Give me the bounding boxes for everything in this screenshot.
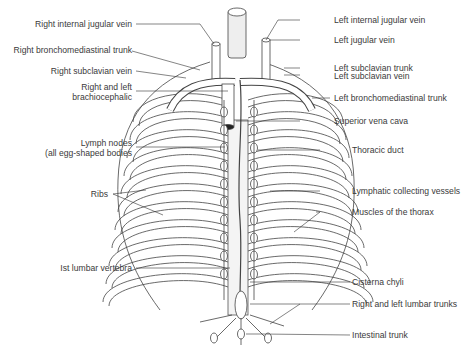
- rib: [103, 274, 228, 302]
- rib: [118, 184, 228, 212]
- rib: [121, 209, 228, 234]
- rib: [248, 137, 343, 162]
- trachea-opening: [228, 8, 246, 16]
- rib: [248, 202, 361, 230]
- label-left-jugular-vein: Left jugular vein: [334, 35, 395, 45]
- label-intestinal-trunk: Intestinal trunk: [352, 330, 408, 340]
- rib: [248, 148, 352, 176]
- rib: [127, 173, 228, 198]
- rib: [248, 155, 346, 180]
- rib: [248, 238, 367, 266]
- cisterna-chyli-sac: [235, 291, 247, 319]
- label-left-internal-jugular-vein: Left internal jugular vein: [334, 15, 425, 25]
- rib: [124, 148, 228, 176]
- rib: [248, 263, 364, 288]
- label-right-left-lumbar-trunks: Right and left lumbar trunks: [352, 299, 457, 309]
- label-first-lumbar-vertebra: Ist lumbar vertebra: [60, 263, 132, 273]
- rib: [248, 166, 355, 194]
- label-muscles-of-the-thorax: Muscles of the thorax: [352, 207, 434, 217]
- label-lymph-nodes-line2: (all egg-shaped bodies: [45, 148, 132, 158]
- label-thoracic-duct: Thoracic duct: [352, 145, 404, 155]
- label-superior-vena-cava: Superior vena cava: [334, 116, 408, 126]
- rib: [112, 220, 228, 248]
- label-left-subclavian-vein: Left subclavian vein: [334, 71, 409, 81]
- rib: [118, 227, 228, 252]
- vertebral-column: [228, 120, 248, 315]
- left-internal-jugular-vessel: [262, 40, 270, 84]
- rib: [124, 191, 228, 216]
- rib: [109, 238, 228, 266]
- rib: [133, 137, 228, 162]
- rib: [248, 227, 358, 252]
- label-brachiocephalic-line2: brachiocephalic: [72, 92, 132, 102]
- rib: [127, 130, 228, 158]
- rib: [248, 281, 367, 306]
- label-brachiocephalic-line1: Right and left: [81, 82, 132, 92]
- rib: [130, 155, 228, 180]
- rib: [136, 119, 228, 144]
- rib: [109, 281, 228, 306]
- rib: [248, 245, 361, 270]
- rib: [248, 173, 349, 198]
- rib: [248, 112, 346, 140]
- trachea: [228, 10, 246, 58]
- label-cisterna-chyli: Cisterna chyli: [352, 277, 404, 287]
- label-lymphatic-collecting-vessels: Lymphatic collecting vessels: [352, 186, 460, 196]
- label-left-bronchomediastinal-trunk: Left bronchomediastinal trunk: [334, 93, 447, 103]
- label-lymph-nodes-line1: Lymph nodes: [81, 138, 132, 148]
- rib: [248, 130, 349, 158]
- label-right-subclavian-vein: Right subclavian vein: [51, 66, 132, 76]
- rib: [248, 191, 352, 216]
- rib: [248, 119, 340, 144]
- rib: [115, 202, 228, 230]
- rib: [248, 209, 355, 234]
- label-right-internal-jugular-vein: Right internal jugular vein: [35, 19, 132, 29]
- rib: [121, 166, 228, 194]
- rib: [248, 184, 358, 212]
- rib: [248, 101, 337, 126]
- label-ribs: Ribs: [91, 189, 108, 199]
- rib: [139, 101, 228, 126]
- rib: [130, 112, 228, 140]
- label-right-bronchomediastinal-trunk: Right bronchomediastinal trunk: [14, 45, 132, 55]
